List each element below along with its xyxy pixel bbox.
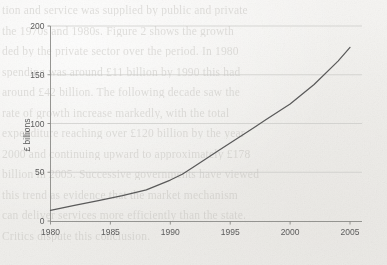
x-tick-label: 1995 — [221, 227, 240, 237]
x-tick-label: 1985 — [101, 227, 120, 237]
x-axis-ticks: 198019851990199520002005 — [41, 221, 360, 237]
gridlines — [51, 26, 363, 172]
y-tick-label: 0 — [40, 216, 45, 226]
data-series-line — [51, 47, 351, 210]
line-chart: 050100150200 198019851990199520002005 £ … — [0, 0, 387, 265]
y-axis-ticks: 050100150200 — [30, 21, 50, 226]
x-tick-label: 1980 — [41, 227, 60, 237]
x-tick-label: 2005 — [341, 227, 360, 237]
y-axis-title: £ billions — [22, 118, 32, 151]
y-tick-label: 200 — [30, 21, 44, 31]
y-tick-label: 100 — [30, 119, 44, 129]
y-tick-label: 50 — [35, 167, 45, 177]
x-tick-label: 1990 — [161, 227, 180, 237]
x-tick-label: 2000 — [281, 227, 300, 237]
y-tick-label: 150 — [30, 70, 44, 80]
